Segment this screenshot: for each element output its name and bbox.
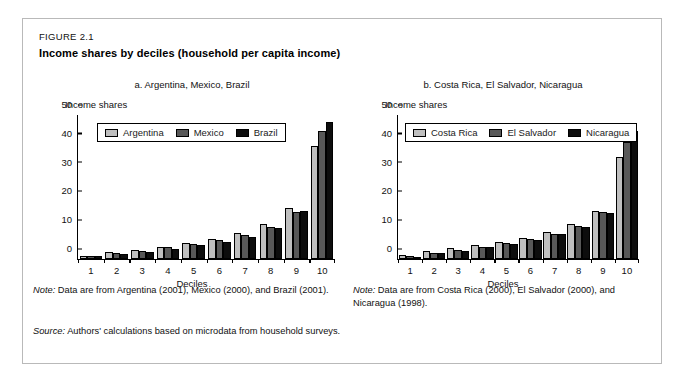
x-axis-tickmark [518, 259, 519, 263]
bar-mexico-decile-6 [216, 240, 224, 259]
bar-costa-rica-decile-10 [616, 157, 624, 259]
chart-panel-b: b. Costa Rica, El Salvador, Nicaragua In… [353, 79, 653, 314]
bar-brazil-decile-9 [300, 211, 308, 259]
panel-a-legend: ArgentinaMexicoBrazil [97, 123, 286, 142]
bar-costa-rica-decile-5 [495, 242, 503, 259]
bar-el-salvador-decile-1 [406, 256, 414, 259]
x-axis-tickmark [591, 259, 592, 263]
bar-brazil-decile-10 [326, 122, 334, 259]
bar-argentina-decile-1 [80, 256, 88, 259]
bar-argentina-decile-6 [208, 239, 216, 259]
legend-item-nicaragua: Nicaragua [568, 127, 629, 138]
bar-argentina-decile-4 [157, 247, 165, 259]
bar-argentina-decile-10 [311, 146, 319, 259]
bar-el-salvador-decile-9 [599, 212, 607, 259]
bar-brazil-decile-5 [197, 245, 205, 259]
bar-costa-rica-decile-4 [471, 245, 479, 259]
x-axis-tickmark [470, 259, 471, 263]
bar-nicaragua-decile-7 [558, 234, 566, 259]
bar-group-decile-10: 10 [309, 115, 335, 259]
note-text-b: Data are from Costa Rica (2000), El Salv… [353, 285, 615, 308]
legend-label: El Salvador [507, 127, 556, 138]
x-axis-tickmark [309, 259, 310, 263]
x-axis-tickmark [78, 259, 79, 263]
x-axis-label-3: 3 [140, 265, 145, 276]
panel-b-title: b. Costa Rica, El Salvador, Nicaragua [353, 79, 653, 90]
x-axis-tickmark [638, 259, 639, 263]
legend-swatch-icon [176, 129, 189, 137]
x-axis-label-2: 2 [431, 265, 436, 276]
x-axis-tickmark [398, 259, 399, 263]
legend-swatch-icon [105, 129, 118, 137]
x-axis-label-4: 4 [165, 265, 170, 276]
y-axis-tick-40: 40 [61, 127, 78, 138]
x-axis-label-9: 9 [294, 265, 299, 276]
x-axis-label-8: 8 [268, 265, 273, 276]
x-axis-tickmark [181, 259, 182, 263]
source-text: Authors' calculations based on microdata… [67, 326, 340, 336]
bar-el-salvador-decile-4 [479, 247, 487, 259]
x-axis-label-7: 7 [242, 265, 247, 276]
legend-item-el-salvador: El Salvador [489, 127, 556, 138]
x-axis-tickmark [494, 259, 495, 263]
x-axis-tickmark [422, 259, 423, 263]
figure-source: Source: Authors' calculations based on m… [33, 326, 340, 336]
panel-a-title: a. Argentina, Mexico, Brazil [33, 79, 351, 90]
bar-mexico-decile-10 [318, 131, 326, 259]
bar-costa-rica-decile-2 [423, 251, 431, 259]
bar-mexico-decile-1 [87, 256, 95, 259]
x-axis-tickmark [232, 259, 233, 263]
bar-argentina-decile-2 [105, 252, 113, 259]
bar-el-salvador-decile-6 [527, 239, 535, 259]
bar-nicaragua-decile-5 [510, 244, 518, 259]
x-axis-label-8: 8 [576, 265, 581, 276]
y-axis-tick-30: 30 [61, 156, 78, 167]
legend-item-mexico: Mexico [176, 127, 224, 138]
bar-costa-rica-decile-3 [447, 248, 455, 259]
legend-swatch-icon [413, 129, 426, 137]
x-axis-label-4: 4 [480, 265, 485, 276]
note-text-a: Data are from Argentina (2001), Mexico (… [58, 285, 329, 295]
bar-brazil-decile-7 [249, 237, 257, 259]
bar-nicaragua-decile-6 [534, 240, 542, 259]
bar-argentina-decile-5 [182, 243, 190, 259]
x-axis-label-5: 5 [504, 265, 509, 276]
note-label-b: Note: [353, 285, 375, 295]
x-axis-tickmark [567, 259, 568, 263]
bar-costa-rica-decile-1 [399, 255, 407, 259]
legend-label: Argentina [123, 127, 164, 138]
legend-label: Brazil [254, 127, 278, 138]
y-axis-tick-0: 0 [387, 243, 398, 254]
bar-nicaragua-decile-3 [462, 251, 470, 259]
bar-nicaragua-decile-9 [607, 213, 615, 259]
x-axis-label-1: 1 [407, 265, 412, 276]
bar-mexico-decile-7 [241, 235, 249, 259]
bar-brazil-decile-1 [95, 256, 103, 259]
bar-el-salvador-decile-7 [551, 234, 559, 259]
bar-mexico-decile-9 [293, 212, 301, 259]
legend-swatch-icon [489, 129, 502, 137]
y-axis-tick-50: 50 [381, 99, 398, 110]
bar-nicaragua-decile-10 [631, 131, 639, 259]
x-axis-tickmark [258, 259, 259, 263]
y-axis-tick-40: 40 [381, 127, 398, 138]
x-axis-label-5: 5 [191, 265, 196, 276]
legend-label: Nicaragua [586, 127, 629, 138]
x-axis-tickmark [543, 259, 544, 263]
bar-argentina-decile-8 [260, 224, 268, 259]
x-axis-tickmark [446, 259, 447, 263]
x-axis-tickmark [207, 259, 208, 263]
bar-brazil-decile-2 [120, 254, 128, 259]
bar-brazil-decile-6 [223, 242, 231, 259]
bar-nicaragua-decile-4 [486, 247, 494, 259]
legend-item-costa-rica: Costa Rica [413, 127, 477, 138]
figure-frame: FIGURE 2.1 Income shares by deciles (hou… [22, 18, 662, 364]
x-axis-label-10: 10 [317, 265, 328, 276]
bar-el-salvador-decile-10 [623, 142, 631, 259]
x-axis-tickmark [284, 259, 285, 263]
bar-brazil-decile-4 [172, 249, 180, 259]
bar-costa-rica-decile-9 [592, 211, 600, 259]
x-axis-tickmark [104, 259, 105, 263]
bar-el-salvador-decile-2 [430, 253, 438, 259]
figure-number: FIGURE 2.1 [39, 31, 94, 42]
